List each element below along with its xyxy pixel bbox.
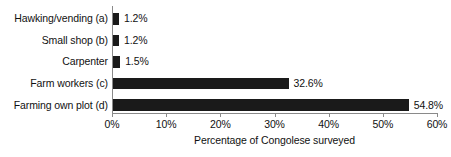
bar [112, 78, 289, 90]
x-axis-tick [166, 113, 167, 117]
x-axis-tick [437, 113, 438, 117]
bar-value-label: 54.8% [409, 100, 443, 111]
x-axis-tick [383, 113, 384, 117]
category-label: Small shop (b) [0, 35, 112, 46]
x-axis-tick [220, 113, 221, 117]
x-axis-tick-labels: 0%10%20%30%40%50%60% [112, 118, 437, 132]
bar [112, 56, 120, 68]
chart-row: Carpenter 1.5% [0, 51, 451, 73]
bar-zone: 1.2% [112, 30, 451, 52]
category-label: Farm workers (c) [0, 78, 112, 89]
bar-zone: 1.2% [112, 8, 451, 30]
y-axis-line [112, 6, 113, 113]
category-label: Farming own plot (d) [0, 100, 112, 111]
x-axis-title: Percentage of Congolese surveyed [112, 134, 437, 146]
bar [112, 35, 119, 47]
x-axis-tick-label: 20% [210, 118, 231, 130]
x-axis-tick-label: 30% [264, 118, 285, 130]
category-label: Carpenter [0, 56, 112, 67]
x-axis-tick-label: 50% [372, 118, 393, 130]
chart-row: Farm workers (c) 32.6% [0, 73, 451, 95]
x-axis-tick-label: 10% [156, 118, 177, 130]
bar-zone: 32.6% [112, 73, 451, 95]
chart-plot-area: Hawking/vending (a) 1.2% Small shop (b) … [0, 8, 451, 116]
x-axis-tick-label: 60% [427, 118, 448, 130]
bar-chart: Hawking/vending (a) 1.2% Small shop (b) … [0, 0, 451, 157]
x-axis-tick [112, 113, 113, 117]
chart-row: Hawking/vending (a) 1.2% [0, 8, 451, 30]
x-axis-tick [275, 113, 276, 117]
bar [112, 13, 119, 25]
bar-value-label: 1.2% [119, 35, 148, 46]
x-axis-tick-label: 0% [105, 118, 120, 130]
category-label: Hawking/vending (a) [0, 13, 112, 24]
bar-value-label: 1.2% [119, 13, 148, 24]
bar [112, 99, 409, 111]
bar-value-label: 32.6% [289, 78, 323, 89]
x-axis-tick-label: 40% [318, 118, 339, 130]
x-axis-tick [329, 113, 330, 117]
bar-value-label: 1.5% [120, 56, 149, 67]
chart-row: Small shop (b) 1.2% [0, 30, 451, 52]
bar-zone: 1.5% [112, 51, 451, 73]
